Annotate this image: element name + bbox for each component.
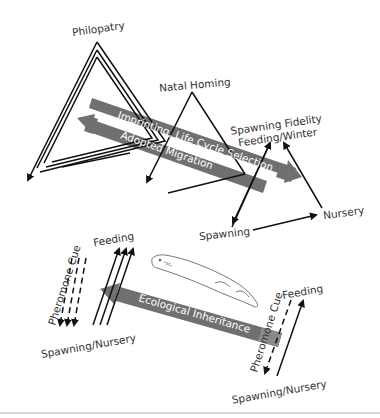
left-pheromone-label: Pheromone Cue bbox=[45, 243, 82, 326]
left-feeding-lines bbox=[93, 249, 133, 325]
natal-homing-label: Natal Homing bbox=[159, 75, 232, 93]
left-spawning-nursery-label: Spawning/Nursery bbox=[40, 331, 137, 360]
migration-diagram: Philopatry Natal Homing Spawning Fidelit… bbox=[0, 0, 380, 418]
spawning-label: Spawning bbox=[198, 225, 250, 242]
nursery-label: Nursery bbox=[322, 204, 365, 222]
ecological-inheritance-label: Ecological Inheritance bbox=[137, 291, 252, 334]
right-spawning-nursery-label: Spawning/Nursery bbox=[231, 377, 328, 406]
right-feeding-label: Feeding bbox=[281, 282, 324, 301]
philopatry-triangles bbox=[28, 42, 165, 180]
philopatry-label: Philopatry bbox=[71, 19, 125, 38]
left-feeding-label: Feeding bbox=[92, 230, 135, 249]
